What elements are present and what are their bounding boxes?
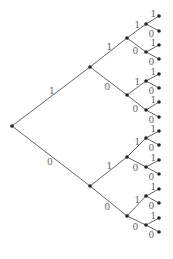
edge-label: 0	[149, 57, 155, 67]
edge-label: 1	[151, 95, 157, 105]
edge-label: 0	[133, 163, 139, 173]
edge-label: 0	[105, 202, 111, 212]
tree-node	[157, 129, 161, 133]
tree-node	[125, 36, 129, 40]
edge-label: 1	[107, 161, 113, 171]
edge-label: 1	[107, 42, 113, 52]
tree-node	[144, 79, 148, 83]
edge-label: 1	[151, 211, 157, 221]
edge-label: 0	[47, 157, 53, 167]
edge-label: 1	[135, 77, 141, 87]
tree-node	[10, 124, 14, 128]
tree-node	[157, 29, 161, 33]
binary-tree-diagram: 101010101010101010101010101010	[0, 0, 173, 259]
tree-edge	[12, 126, 90, 186]
edge-label: 1	[135, 137, 141, 147]
tree-node	[157, 187, 161, 191]
tree-node	[157, 86, 161, 90]
tree-node	[157, 172, 161, 176]
edge-label: 1	[151, 38, 157, 48]
edge-label: 0	[149, 86, 155, 96]
tree-node	[144, 223, 148, 227]
edge-label: 0	[149, 143, 155, 153]
tree-edge	[12, 67, 90, 126]
tree-node	[157, 216, 161, 220]
tree-node	[125, 93, 129, 97]
tree-node	[144, 50, 148, 54]
edge-label: 0	[149, 172, 155, 182]
edge-label: 1	[49, 86, 55, 96]
edge-label: 1	[151, 153, 157, 163]
edge-label: 1	[151, 182, 157, 192]
tree-node	[144, 22, 148, 26]
tree-node	[157, 158, 161, 162]
edge-label: 0	[133, 222, 139, 232]
edge-label: 0	[105, 82, 111, 92]
tree-node	[125, 214, 129, 218]
tree-node	[157, 43, 161, 47]
edge-label: 1	[135, 20, 141, 30]
edge-label: 1	[151, 124, 157, 134]
edge-label: 0	[149, 230, 155, 240]
tree-node	[144, 194, 148, 198]
edge-label: 0	[133, 104, 139, 114]
tree-node	[144, 165, 148, 169]
tree-node	[157, 201, 161, 205]
tree-node	[157, 115, 161, 119]
tree-node	[88, 184, 92, 188]
tree-node	[125, 155, 129, 159]
tree-node	[157, 230, 161, 234]
tree-node	[157, 57, 161, 61]
edge-label: 1	[135, 195, 141, 205]
tree-node	[157, 72, 161, 76]
edge-label: 0	[149, 201, 155, 211]
tree-node	[144, 108, 148, 112]
tree-node	[157, 14, 161, 18]
tree-node	[157, 143, 161, 147]
tree-node	[144, 136, 148, 140]
edge-label: 1	[151, 9, 157, 19]
edge-label: 1	[151, 67, 157, 77]
tree-node	[157, 100, 161, 104]
edge-label: 0	[133, 46, 139, 56]
tree-node	[88, 65, 92, 69]
